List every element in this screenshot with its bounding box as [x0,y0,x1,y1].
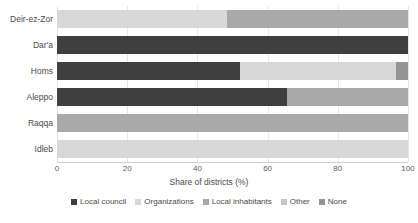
bar-segment [57,140,408,158]
legend-item-label: Organizations [144,197,193,206]
bar-row [57,88,408,106]
bar-row [57,36,408,54]
legend-swatch-icon [319,199,325,205]
legend-item-label: Local council [80,197,126,206]
bar-rows [57,6,408,162]
bar-segment [227,10,408,28]
bar-segment [57,114,408,132]
bar-row [57,62,408,80]
bar-row [57,140,408,158]
y-axis-label: Aleppo [27,88,53,106]
x-axis-tick-label: 60 [263,164,272,173]
x-axis-tick-label: 20 [123,164,132,173]
y-axis-category-labels: Deir-ez-ZorDar'aHomsAleppoRaqqaIdleb [0,6,53,162]
legend-item-label: None [328,197,347,206]
legend-item[interactable]: Other [281,197,310,206]
legend-swatch-icon [203,199,209,205]
bar-row [57,114,408,132]
y-axis-label: Idleb [35,140,53,158]
legend-swatch-icon [135,199,141,205]
y-axis-label: Homs [31,62,53,80]
bar-segment [57,62,240,80]
bar-segment [240,62,396,80]
stacked-bar-chart: Deir-ez-ZorDar'aHomsAleppoRaqqaIdleb 020… [0,0,418,223]
legend-item[interactable]: None [319,197,347,206]
x-axis-tick-label: 40 [193,164,202,173]
plot-area [57,6,408,162]
y-axis-label: Deir-ez-Zor [10,10,53,28]
legend-item[interactable]: Organizations [135,197,193,206]
x-axis-tick-label: 80 [333,164,342,173]
x-axis-line [57,162,408,163]
legend-item-label: Other [290,197,310,206]
x-axis-tick-label: 100 [401,164,414,173]
bar-segment [287,88,408,106]
y-axis-label: Dar'a [33,36,53,54]
legend-swatch-icon [71,199,77,205]
legend-item[interactable]: Local council [71,197,126,206]
x-axis-tick-label: 0 [55,164,59,173]
legend-item-label: Local inhabitants [212,197,272,206]
chart-legend: Local councilOrganizationsLocal inhabita… [0,197,418,206]
bar-segment [57,10,227,28]
gridline-100 [408,6,409,162]
bar-segment [57,36,408,54]
x-axis-title: Share of districts (%) [0,177,418,187]
y-axis-label: Raqqa [28,114,53,132]
bar-segment [57,88,287,106]
bar-row [57,10,408,28]
legend-swatch-icon [281,199,287,205]
bar-segment [396,62,408,80]
legend-item[interactable]: Local inhabitants [203,197,272,206]
x-axis-tick-labels: 020406080100 [57,164,408,176]
